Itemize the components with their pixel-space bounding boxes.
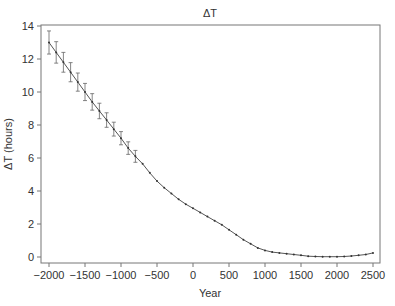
data-point [307, 255, 309, 257]
data-point [257, 247, 259, 249]
data-point [170, 192, 172, 194]
data-point [329, 256, 331, 258]
data-point [250, 243, 252, 245]
x-tick-label: −2000 [34, 269, 65, 281]
x-tick-label: 2500 [361, 269, 385, 281]
data-point [127, 147, 129, 149]
data-point [206, 216, 208, 218]
y-tick-label: 0 [28, 251, 34, 263]
data-point [300, 254, 302, 256]
data-point [235, 234, 237, 236]
y-tick-label: 4 [28, 185, 34, 197]
x-tick-label: 1500 [289, 269, 313, 281]
plot-frame [41, 25, 380, 263]
data-point [134, 155, 136, 157]
data-point [106, 119, 108, 121]
data-point [120, 137, 122, 139]
chart-title: ΔT [203, 7, 217, 19]
data-point [372, 252, 374, 254]
x-tick-label: −1500 [70, 269, 101, 281]
data-point [178, 198, 180, 200]
data-point [314, 256, 316, 258]
data-point [98, 110, 100, 112]
y-tick-label: 12 [22, 53, 34, 65]
data-point [322, 256, 324, 258]
y-tick-label: 6 [28, 152, 34, 164]
series-line [49, 43, 373, 257]
data-point [214, 220, 216, 222]
x-axis: −2000−1500−1000−50005001000150020002500 [34, 263, 386, 281]
data-point [48, 42, 50, 44]
delta-t-chart: ΔT 02468101214 −2000−1500−1000−500050010… [0, 0, 395, 306]
x-tick-label: 0 [190, 269, 196, 281]
x-tick-label: 2000 [325, 269, 349, 281]
data-point [271, 251, 273, 253]
data-point [228, 229, 230, 231]
data-point [113, 128, 115, 130]
data-point [286, 253, 288, 255]
y-axis: 02468101214 [22, 20, 41, 263]
data-point [62, 61, 64, 63]
data-point [149, 172, 151, 174]
y-axis-title: ΔT (hours) [2, 118, 14, 170]
data-point [84, 91, 86, 93]
y-tick-label: 10 [22, 86, 34, 98]
data-point [163, 187, 165, 189]
data-series [47, 31, 374, 258]
x-tick-label: 500 [220, 269, 238, 281]
data-point [343, 256, 345, 258]
data-point [293, 254, 295, 256]
data-point [70, 71, 72, 73]
data-point [242, 239, 244, 241]
data-point [91, 101, 93, 103]
x-tick-label: −500 [145, 269, 170, 281]
y-tick-label: 8 [28, 119, 34, 131]
y-tick-label: 14 [22, 20, 34, 32]
data-point [199, 211, 201, 213]
data-point [55, 51, 57, 53]
data-point [221, 224, 223, 226]
data-point [278, 252, 280, 254]
data-point [192, 207, 194, 209]
data-point [156, 180, 158, 182]
data-point [142, 163, 144, 165]
x-axis-title: Year [199, 287, 222, 299]
data-point [77, 81, 79, 83]
data-point [264, 249, 266, 251]
data-point [365, 254, 367, 256]
data-point [185, 203, 187, 205]
x-tick-label: 1000 [253, 269, 277, 281]
x-tick-label: −1000 [106, 269, 137, 281]
data-point [358, 254, 360, 256]
y-tick-label: 2 [28, 218, 34, 230]
data-point [350, 255, 352, 257]
data-point [336, 256, 338, 258]
